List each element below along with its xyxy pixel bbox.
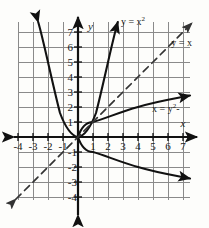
y-tick-label: -1: [68, 146, 77, 158]
y-tick-labels: 7 6 5 4 3 2 1 -1 -2 -3 -4: [68, 26, 78, 203]
y-tick-label: 3: [68, 86, 74, 98]
annotation-base: x = y: [152, 103, 173, 114]
y-tick-label: 4: [68, 71, 74, 83]
annotation-base: y = x: [121, 16, 142, 27]
y-axis-label: y: [87, 20, 93, 32]
x-tick-label: 2: [105, 140, 111, 152]
annotation-y-equals-x-squared: y = x2: [121, 15, 146, 27]
y-tick-label: 7: [68, 26, 74, 38]
y-tick-label: -3: [68, 176, 78, 188]
x-tick-label: 7: [180, 140, 186, 152]
x-tick-label: 6: [165, 140, 171, 152]
y-tick-label: -2: [68, 161, 77, 173]
y-tick-label: 5: [68, 56, 74, 68]
x-tick-label: 4: [135, 140, 141, 152]
x-tick-label: -3: [28, 140, 38, 152]
x-tick-label: -2: [43, 140, 52, 152]
graph-figure: -4 -3 -2 -1 1 2 3 4 5 6 7 7 6 5 4 3 2 1 …: [0, 0, 209, 228]
annotation-y-equals-x: y = x: [171, 37, 192, 48]
annotation-identity: y = x: [171, 37, 192, 48]
x-tick-label: 1: [90, 140, 96, 152]
annotation-exponent: 2: [142, 15, 146, 23]
x-tick-label: -1: [58, 140, 67, 152]
y-tick-label: -4: [68, 191, 78, 203]
x-tick-label: 5: [150, 140, 156, 152]
svg-text:x = y2-: x = y2-: [152, 102, 179, 114]
x-tick-labels: -4 -3 -2 -1 1 2 3 4 5 6 7: [13, 140, 186, 152]
annotation-tail: -: [176, 103, 179, 114]
y-tick-label: 1: [68, 116, 74, 128]
svg-text:y = x2: y = x2: [121, 15, 146, 27]
coordinate-plane-svg: -4 -3 -2 -1 1 2 3 4 5 6 7 7 6 5 4 3 2 1 …: [0, 0, 209, 228]
y-tick-label: 2: [68, 101, 74, 113]
annotation-x-equals-y-squared: x = y2-: [152, 102, 179, 114]
x-tick-label: -4: [13, 140, 23, 152]
x-axis-label: x: [180, 117, 186, 129]
x-tick-label: 3: [120, 140, 126, 152]
y-tick-label: 6: [68, 41, 74, 53]
